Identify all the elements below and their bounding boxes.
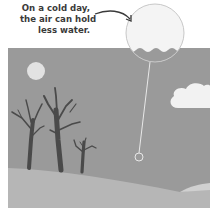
caption-line-3: less water. — [20, 25, 90, 36]
arrow-icon — [95, 11, 130, 19]
caption-line-1: On a cold day, — [20, 3, 90, 14]
caption-line-2: the air can hold — [20, 14, 90, 25]
caption: On a cold day, the air can hold less wat… — [20, 3, 90, 36]
sun-icon — [27, 62, 45, 80]
